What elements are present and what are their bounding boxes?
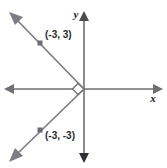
y-axis-down-arrow-icon	[79, 153, 89, 163]
point-marker-upper	[38, 41, 43, 46]
point-label-lower: (-3, -3)	[45, 130, 75, 141]
point-label-upper: (-3, 3)	[45, 29, 72, 40]
graph-canvas: (-3, 3) (-3, -3) y x	[0, 0, 167, 168]
open-circle-at-origin	[73, 84, 85, 95]
coordinate-graph-figure: (-3, 3) (-3, -3) y x	[0, 0, 167, 168]
y-axis-up-arrow-icon	[79, 11, 89, 21]
x-axis-left-arrow-icon	[4, 84, 14, 94]
point-marker-lower	[38, 128, 43, 133]
axes-group	[4, 11, 163, 163]
point-markers-group	[38, 41, 85, 133]
labels-group: (-3, 3) (-3, -3) y x	[45, 8, 156, 141]
lower-left-ray	[17, 90, 83, 154]
x-axis-label: x	[149, 92, 156, 104]
y-axis-label: y	[72, 8, 79, 20]
